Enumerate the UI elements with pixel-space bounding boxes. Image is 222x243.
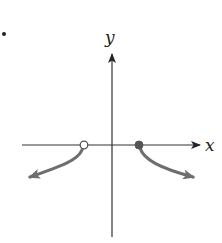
function-graph: x y <box>0 0 222 243</box>
open-endpoint-icon <box>80 141 88 149</box>
left-branch-curve <box>30 150 82 177</box>
right-branch-curve <box>140 148 193 177</box>
closed-endpoint-icon <box>135 141 143 149</box>
y-axis-label: y <box>104 27 115 47</box>
list-bullet <box>2 32 6 36</box>
x-axis-label: x <box>205 135 215 155</box>
